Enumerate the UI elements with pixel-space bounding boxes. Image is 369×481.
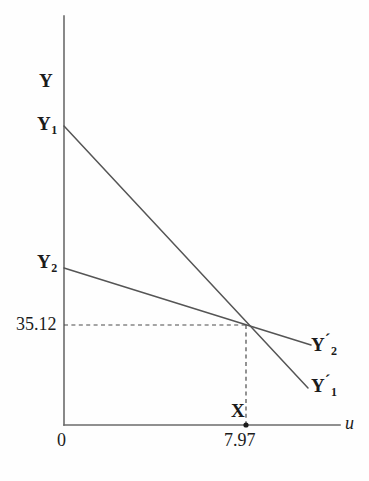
curve-Y1-end-label: Y´1	[311, 376, 336, 395]
curve-Y1-end-prime: ´	[325, 371, 331, 390]
point-X-letter: X	[231, 400, 245, 421]
x-axis-label: u	[345, 414, 354, 432]
curve-Y2-end-prime: ´	[325, 330, 331, 349]
curve-Y1-end-letter: Y	[311, 375, 325, 396]
curve-Y2-start-label: Y2	[37, 252, 57, 271]
curve-Y2-start-letter: Y	[37, 251, 51, 272]
chart-plot-area	[0, 0, 369, 481]
figure-container: Y Y1 Y2 Y´2 Y´1 35.12 X 0 7.97 u	[0, 0, 369, 481]
curve-Y2-end-subscript: 2	[331, 344, 337, 358]
origin-label: 0	[57, 431, 66, 449]
point-X-marker	[243, 422, 248, 427]
curve-Y1	[64, 126, 308, 388]
point-X-label: X	[231, 401, 245, 420]
curve-Y1-start-subscript: 1	[51, 123, 57, 137]
y-value-tick-label: 35.12	[16, 315, 57, 333]
y-axis-label-text: Y	[39, 70, 53, 91]
curve-Y1-start-letter: Y	[37, 113, 51, 134]
curve-Y1-start-label: Y1	[37, 114, 57, 133]
x-value-tick-label: 7.97	[224, 431, 256, 449]
curve-Y2	[64, 268, 311, 345]
curve-Y2-end-label: Y´2	[311, 335, 336, 354]
curve-Y1-end-subscript: 1	[331, 385, 337, 399]
curve-Y2-end-letter: Y	[311, 334, 325, 355]
curve-Y2-start-subscript: 2	[51, 261, 57, 275]
y-axis-label: Y	[39, 71, 53, 90]
